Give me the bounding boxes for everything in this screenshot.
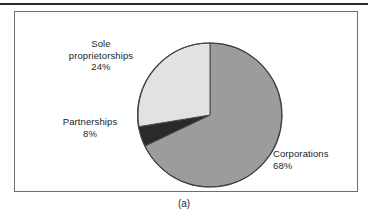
slice-label-sole-proprietorships: Sole proprietorships 24% — [63, 38, 139, 73]
slice-label-partnerships: Partnerships 8% — [46, 116, 134, 139]
slice-value-sole-proprietorships: 24% — [63, 61, 139, 73]
slice-label-partnerships-text: Partnerships — [63, 116, 118, 127]
pie-slice-sole-proprietorships — [137, 43, 210, 127]
figure-panel: Sole proprietorships 24% Partnerships 8%… — [0, 0, 368, 221]
slice-label-sole-proprietorships-line1: Sole — [91, 38, 110, 49]
figure-border-box: Sole proprietorships 24% Partnerships 8%… — [14, 11, 358, 192]
slice-value-partnerships: 8% — [46, 128, 134, 140]
slice-value-corporations: 68% — [273, 160, 368, 172]
slice-label-sole-proprietorships-line2: proprietorships — [69, 50, 133, 61]
pie-chart-svg — [137, 42, 283, 188]
slice-label-corporations: Corporations 68% — [273, 148, 368, 171]
slice-label-corporations-text: Corporations — [273, 148, 329, 159]
figure-caption: (a) — [0, 198, 368, 209]
pie-chart — [137, 42, 283, 188]
top-horizontal-rule — [0, 3, 368, 5]
